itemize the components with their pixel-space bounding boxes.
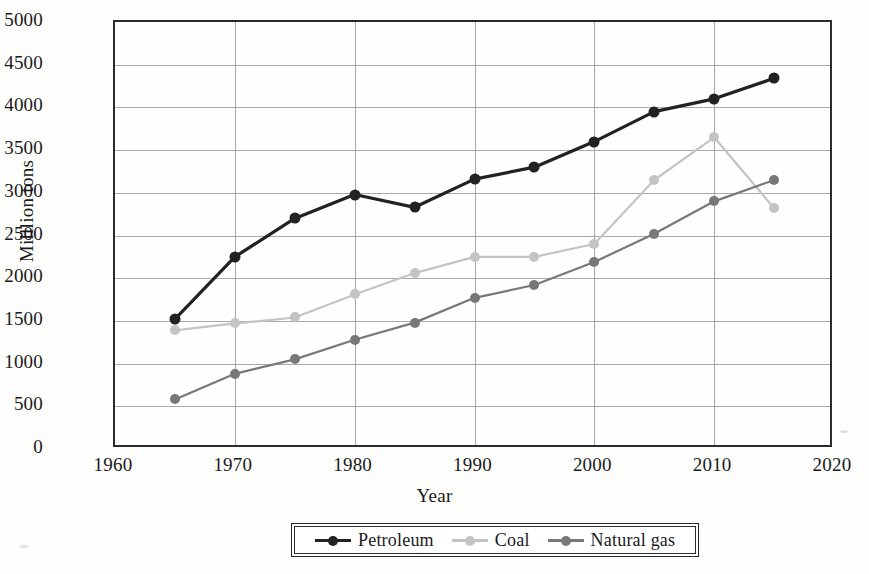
data-point-petroleum [409, 202, 420, 213]
y-axis-tick-label: 1500 [0, 309, 43, 328]
data-point-petroleum [229, 251, 240, 262]
y-axis-tick-label: 0 [0, 437, 43, 456]
data-point-natural-gas [410, 318, 420, 328]
legend-label: Coal [495, 531, 530, 549]
data-point-petroleum [289, 213, 300, 224]
legend-label: Petroleum [358, 531, 434, 549]
data-point-coal [350, 289, 360, 299]
legend-item-petroleum[interactable]: Petroleum [315, 531, 434, 549]
data-point-coal [649, 175, 659, 185]
x-axis-title: Year [0, 485, 869, 507]
data-point-petroleum [169, 314, 180, 325]
x-axis-tick-label: 2020 [792, 455, 869, 474]
y-axis-tick-label: 3000 [0, 181, 43, 200]
data-point-natural-gas [170, 394, 180, 404]
y-axis-tick-label: 2500 [0, 224, 43, 243]
data-point-natural-gas [350, 335, 360, 345]
chart-figure: Milllion tons 05001000150020002500300035… [0, 0, 869, 574]
data-point-coal [230, 318, 240, 328]
series-line-natural-gas [175, 180, 774, 399]
data-point-coal [589, 239, 599, 249]
legend-item-natural-gas[interactable]: Natural gas [548, 531, 676, 549]
data-point-petroleum [469, 174, 480, 185]
chart-legend: PetroleumCoalNatural gas [294, 526, 696, 554]
legend-item-coal[interactable]: Coal [452, 531, 530, 549]
data-point-natural-gas [709, 196, 719, 206]
y-axis-tick-label: 500 [0, 394, 43, 413]
scan-speck [840, 430, 848, 433]
x-axis-tick-label: 1990 [433, 455, 513, 474]
legend-label: Natural gas [591, 531, 676, 549]
data-point-coal [410, 268, 420, 278]
y-axis-tick-label: 4000 [0, 95, 43, 114]
legend-swatch-icon [548, 534, 584, 546]
x-axis-tick-label: 1960 [73, 455, 153, 474]
plot-area [113, 20, 832, 447]
data-point-petroleum [769, 73, 780, 84]
data-point-natural-gas [589, 257, 599, 267]
y-axis-tick-label: 5000 [0, 10, 43, 29]
y-axis-tick-label: 2000 [0, 266, 43, 285]
data-point-coal [470, 252, 480, 262]
data-point-natural-gas [290, 354, 300, 364]
data-point-natural-gas [769, 175, 779, 185]
series-lines [115, 22, 834, 449]
y-axis-tick-label: 3500 [0, 138, 43, 157]
legend-swatch-icon [452, 534, 488, 546]
data-point-natural-gas [649, 229, 659, 239]
data-point-petroleum [709, 93, 720, 104]
data-point-petroleum [589, 136, 600, 147]
data-point-petroleum [649, 106, 660, 117]
y-axis-tick-label: 1000 [0, 352, 43, 371]
data-point-natural-gas [529, 280, 539, 290]
scan-speck [20, 545, 29, 548]
data-point-coal [769, 203, 779, 213]
data-point-coal [709, 132, 719, 142]
data-point-petroleum [529, 162, 540, 173]
data-point-coal [290, 312, 300, 322]
legend-swatch-icon [315, 534, 351, 546]
x-axis-tick-label: 1980 [313, 455, 393, 474]
data-point-petroleum [349, 189, 360, 200]
x-axis-tick-label: 2010 [672, 455, 752, 474]
y-axis-tick-label: 4500 [0, 53, 43, 72]
x-axis-tick-label: 1970 [193, 455, 273, 474]
data-point-natural-gas [470, 293, 480, 303]
x-axis-tick-label: 2000 [552, 455, 632, 474]
data-point-coal [529, 252, 539, 262]
data-point-coal [170, 325, 180, 335]
series-line-petroleum [175, 78, 774, 319]
data-point-natural-gas [230, 369, 240, 379]
